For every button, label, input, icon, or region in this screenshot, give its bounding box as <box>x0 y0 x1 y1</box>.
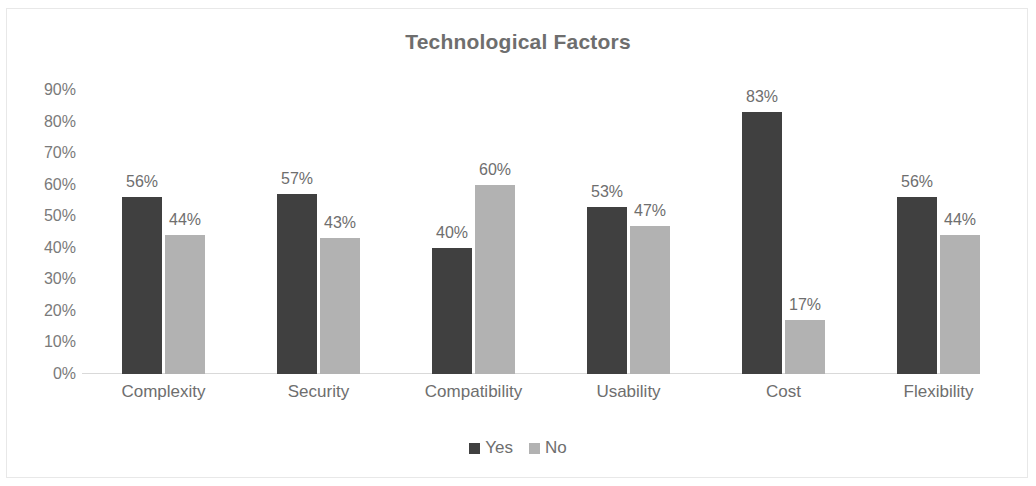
bar-yes[interactable] <box>432 248 472 374</box>
bar-yes[interactable] <box>897 197 937 374</box>
x-axis-category-label: Complexity <box>86 382 241 402</box>
bar-value-label: 57% <box>273 170 321 188</box>
y-axis-tick-label: 80% <box>16 113 76 131</box>
chart-legend: YesNo <box>0 438 1036 458</box>
bar-value-label: 44% <box>161 211 209 229</box>
x-axis-category-label: Usability <box>551 382 706 402</box>
bar-yes[interactable] <box>122 197 162 374</box>
bar-yes[interactable] <box>277 194 317 374</box>
bar-yes[interactable] <box>742 112 782 374</box>
x-axis-category-label: Compatibility <box>396 382 551 402</box>
y-axis-tick-label: 50% <box>16 207 76 225</box>
x-axis-category-label: Flexibility <box>861 382 1016 402</box>
bar-group: 56%44%Flexibility <box>861 90 1016 374</box>
bar-no[interactable] <box>165 235 205 374</box>
bar-yes[interactable] <box>587 207 627 374</box>
bar-no[interactable] <box>320 238 360 374</box>
y-axis-tick-label: 0% <box>16 365 76 383</box>
legend-swatch-icon <box>469 443 480 454</box>
legend-swatch-icon <box>529 443 540 454</box>
bar-no[interactable] <box>630 226 670 374</box>
legend-item[interactable]: Yes <box>469 438 513 458</box>
legend-item[interactable]: No <box>529 438 567 458</box>
y-axis-tick-label: 40% <box>16 239 76 257</box>
bar-value-label: 17% <box>781 296 829 314</box>
chart-container: Technological Factors 0%10%20%30%40%50%6… <box>0 0 1036 486</box>
bar-value-label: 43% <box>316 214 364 232</box>
bar-group: 40%60%Compatibility <box>396 90 551 374</box>
bar-value-label: 47% <box>626 202 674 220</box>
bar-no[interactable] <box>940 235 980 374</box>
plot-area: 56%44%Complexity57%43%Security40%60%Comp… <box>82 90 972 374</box>
y-axis-tick-label: 90% <box>16 81 76 99</box>
bar-value-label: 83% <box>738 88 786 106</box>
y-axis-tick-label: 10% <box>16 333 76 351</box>
bar-group: 57%43%Security <box>241 90 396 374</box>
x-axis-category-label: Security <box>241 382 396 402</box>
bar-group: 83%17%Cost <box>706 90 861 374</box>
bar-value-label: 56% <box>118 173 166 191</box>
legend-label: No <box>545 438 567 458</box>
y-axis-tick-label: 30% <box>16 270 76 288</box>
bar-value-label: 60% <box>471 161 519 179</box>
bar-value-label: 44% <box>936 211 984 229</box>
bar-group: 53%47%Usability <box>551 90 706 374</box>
bar-no[interactable] <box>475 185 515 374</box>
chart-title: Technological Factors <box>0 30 1036 54</box>
y-axis-tick-label: 70% <box>16 144 76 162</box>
x-axis-category-label: Cost <box>706 382 861 402</box>
bar-value-label: 56% <box>893 173 941 191</box>
y-axis-tick-label: 20% <box>16 302 76 320</box>
bar-value-label: 53% <box>583 183 631 201</box>
bar-value-label: 40% <box>428 224 476 242</box>
bar-group: 56%44%Complexity <box>86 90 241 374</box>
bar-no[interactable] <box>785 320 825 374</box>
y-axis-tick-label: 60% <box>16 176 76 194</box>
y-axis: 0%10%20%30%40%50%60%70%80%90% <box>8 0 76 486</box>
legend-label: Yes <box>485 438 513 458</box>
